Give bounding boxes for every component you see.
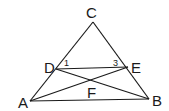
label-e: E xyxy=(131,59,141,76)
triangle-diagram: C D E A B F 1 3 xyxy=(0,0,169,111)
label-f: F xyxy=(87,84,96,101)
segment-ac xyxy=(30,22,93,101)
label-d: D xyxy=(44,59,55,76)
label-a: A xyxy=(18,94,28,111)
label-c: C xyxy=(86,4,97,21)
angle-label-3: 3 xyxy=(113,58,118,68)
angle-label-1: 1 xyxy=(64,58,69,68)
label-b: B xyxy=(152,92,162,109)
